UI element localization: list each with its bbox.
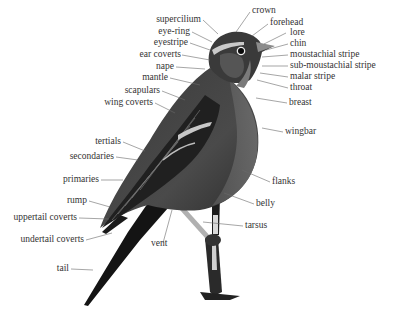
label-uppertail-coverts: uppertail coverts bbox=[13, 212, 77, 223]
label-tertials: tertials bbox=[95, 136, 121, 147]
label-lore: lore bbox=[290, 27, 305, 38]
label-tarsus: tarsus bbox=[245, 220, 267, 231]
label-sub-moustachial-stripe: sub-moustachial stripe bbox=[290, 60, 376, 71]
label-moustachial-stripe: moustachial stripe bbox=[290, 49, 359, 60]
label-eyestripe: eyestripe bbox=[154, 37, 188, 48]
label-undertail-coverts: undertail coverts bbox=[20, 234, 84, 245]
label-flanks: flanks bbox=[272, 176, 295, 187]
label-vent: vent bbox=[151, 238, 167, 249]
label-breast: breast bbox=[289, 97, 312, 108]
label-tail: tail bbox=[57, 263, 69, 274]
label-chin: chin bbox=[290, 38, 306, 49]
label-nape: nape bbox=[156, 61, 174, 72]
label-rump: rump bbox=[67, 195, 87, 206]
label-secondaries: secondaries bbox=[70, 151, 114, 162]
perch-branch bbox=[200, 238, 240, 300]
label-malar-stripe: malar stripe bbox=[290, 71, 335, 82]
label-mantle: mantle bbox=[142, 72, 168, 83]
label-scapulars: scapulars bbox=[125, 85, 160, 96]
bird-topography-diagram: crown forehead lore chin moustachial str… bbox=[0, 0, 395, 317]
label-primaries: primaries bbox=[63, 174, 99, 185]
label-wingbar: wingbar bbox=[285, 126, 316, 137]
label-supercilium: supercilium bbox=[156, 14, 201, 25]
label-wing-coverts: wing coverts bbox=[104, 97, 153, 108]
label-throat: throat bbox=[290, 82, 312, 93]
label-eye-ring: eye-ring bbox=[158, 26, 190, 37]
tail-shape bbox=[84, 200, 168, 306]
label-belly: belly bbox=[256, 198, 275, 209]
label-crown: crown bbox=[252, 5, 276, 16]
label-ear-coverts: ear coverts bbox=[140, 49, 181, 60]
